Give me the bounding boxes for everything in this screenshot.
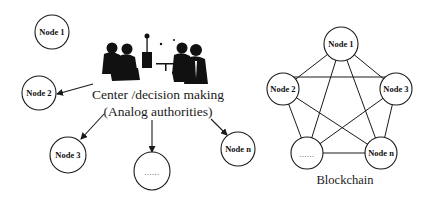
- node-label: Node 3: [383, 84, 408, 94]
- blockchain-node-dots: ......: [291, 137, 323, 169]
- node-label: Node 3: [55, 150, 80, 160]
- central-node-2: Node 2: [22, 76, 56, 110]
- blockchain-node-2: Node 2: [267, 73, 299, 105]
- central-node-dots: ......: [134, 152, 170, 190]
- central-node-1: Node 1: [35, 15, 69, 49]
- blockchain-caption: Blockchain: [317, 173, 375, 187]
- node-label: ......: [300, 150, 315, 159]
- meeting-people-icon: [102, 34, 208, 85]
- blockchain-node-3: Node 3: [380, 73, 412, 105]
- node-label: ......: [145, 168, 160, 177]
- central-node-n: Node n: [221, 132, 255, 166]
- diagram-canvas: Center /decision making (Analog authorit…: [0, 0, 435, 201]
- blockchain-node-n: Node n: [365, 137, 397, 169]
- node-label: Node n: [225, 144, 251, 154]
- centralized-model: Center /decision making (Analog authorit…: [22, 15, 255, 190]
- center-caption-line1: Center /decision making: [92, 87, 224, 102]
- blockchain-model: Node 1 Node 2 Node 3 ...... Node n Block…: [267, 27, 412, 187]
- node-label: Node 2: [270, 84, 295, 94]
- node-label: Node 1: [328, 39, 353, 49]
- arrow-to-node-n: [211, 119, 227, 135]
- arrow-to-node-3: [81, 114, 104, 139]
- arrow-to-node-2: [57, 84, 93, 94]
- node-label: Node 2: [26, 88, 51, 98]
- node-label: Node 1: [39, 27, 64, 37]
- center-caption-line2: (Analog authorities): [103, 104, 212, 119]
- node-label: Node n: [368, 148, 394, 158]
- blockchain-node-1: Node 1: [324, 27, 358, 61]
- central-node-3: Node 3: [50, 137, 86, 173]
